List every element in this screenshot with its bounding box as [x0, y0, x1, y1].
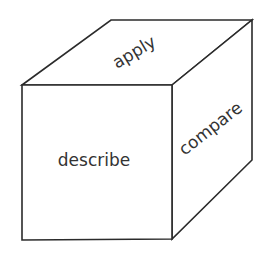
- cube-diagram: describe apply compare: [0, 0, 269, 253]
- cube-svg: describe apply compare: [0, 0, 269, 253]
- front-face-label: describe: [58, 150, 130, 170]
